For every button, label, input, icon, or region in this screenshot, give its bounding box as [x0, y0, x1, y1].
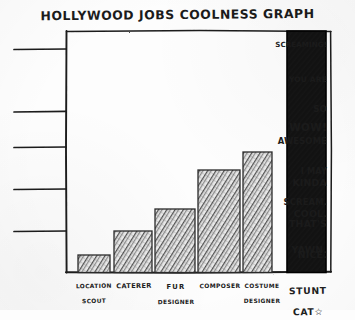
- y-tick-label-thats-nice: That's nice.: [261, 198, 327, 271]
- x-tick-label-stunt-cat-line1: Stunt: [286, 286, 330, 297]
- x-tick-label-fur-designer-line1: Fur: [152, 283, 200, 292]
- bar-fur-designer: [155, 209, 195, 273]
- x-tick-label-costume-designer-line2: Designer: [238, 297, 286, 304]
- y-tick-label-awesome-line2: so: [261, 104, 327, 115]
- y-tick-label-kinda-cool-line1: Kinda: [261, 178, 327, 188]
- x-tick-label-location-scout: Location Scout: [68, 276, 121, 313]
- bar-composer: [198, 170, 240, 273]
- x-tick-label-costume-designer: Costume Designer: [238, 276, 286, 312]
- x-tick-label-caterer: Caterer: [110, 282, 158, 291]
- y-axis-ticks: [14, 49, 66, 232]
- bar-caterer: [114, 231, 152, 273]
- x-tick-label-fur-designer: Fur Designer: [152, 276, 200, 313]
- x-tick-label-stunt-cat-line2: Cat☆: [286, 307, 330, 318]
- x-tick-label-fur-designer-line2: Designer: [152, 299, 200, 307]
- y-tick-label-awesome-line1: You are: [261, 75, 327, 85]
- y-tick-label-screaming: Screaming!: [261, 41, 327, 49]
- y-tick-label-thats-nice-line1: That's: [261, 219, 327, 229]
- x-tick-label-location-scout-line2: Scout: [68, 297, 120, 305]
- y-tick-label-awesome-line3: Awesome: [261, 136, 327, 147]
- y-tick-label-wow: Wow!: [261, 122, 327, 134]
- x-tick-label-costume-designer-line1: Costume: [238, 283, 286, 290]
- bar-location-scout: [78, 255, 110, 273]
- x-tick-label-stunt-cat: Stunt Cat☆: [286, 276, 331, 320]
- y-tick-label-yawn: Yawn.: [261, 245, 327, 255]
